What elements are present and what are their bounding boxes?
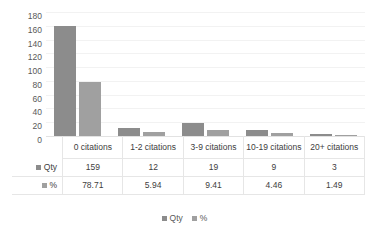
series-color-swatch-icon [36, 165, 41, 170]
bar-chart-with-data-table: Total 180160140120100806040200 0 citatio… [0, 0, 369, 240]
table-cell: 19 [183, 159, 243, 177]
table-cell: 1.49 [304, 177, 364, 195]
table-cell: 3 [304, 159, 364, 177]
table-row-header: Qty [12, 159, 63, 177]
bar-groups [46, 12, 365, 136]
category-label: 3-9 citations [183, 136, 243, 159]
y-axis-tick-labels: 180160140120100806040200 [16, 8, 42, 136]
bar-group [174, 12, 238, 136]
table-cell: 9 [244, 159, 304, 177]
table-body: 0 citations1-2 citations3-9 citations10-… [12, 136, 365, 195]
series-color-swatch-icon [42, 183, 47, 188]
legend-item[interactable]: % [192, 213, 208, 223]
series-name: Qty [44, 162, 57, 172]
table-cell: 4.46 [244, 177, 304, 195]
table-cell: 9.41 [183, 177, 243, 195]
y-axis-tick-label: 100 [28, 67, 42, 75]
table-row: %78.715.949.414.461.49 [12, 177, 365, 195]
table-row: Qty159121993 [12, 159, 365, 177]
y-axis-tick-label: 180 [28, 12, 42, 20]
y-axis-tick-label: 60 [33, 95, 42, 103]
chart-legend: Qty% [0, 213, 369, 223]
table-row-categories: 0 citations1-2 citations3-9 citations10-… [12, 136, 365, 159]
legend-color-swatch-icon [162, 216, 167, 221]
chart-data-table: 0 citations1-2 citations3-9 citations10-… [12, 136, 365, 195]
category-label: 0 citations [63, 136, 123, 159]
bar-qty [118, 128, 140, 136]
bar-group [301, 12, 365, 136]
bar-group [237, 12, 301, 136]
table-cell: 12 [123, 159, 183, 177]
y-axis-tick-label: 160 [28, 26, 42, 34]
y-axis-tick-label: 40 [33, 108, 42, 116]
table-cell: 5.94 [123, 177, 183, 195]
legend-label: % [200, 213, 208, 223]
table-corner-cell [12, 136, 63, 159]
category-label: 10-19 citations [244, 136, 304, 159]
bar-qty [54, 26, 76, 136]
plot-area [46, 12, 365, 136]
y-axis-tick-label: 140 [28, 40, 42, 48]
bar-qty [182, 123, 204, 136]
table-cell: 78.71 [63, 177, 123, 195]
bar-pct [79, 82, 101, 136]
table-cell: 159 [63, 159, 123, 177]
series-name: % [50, 180, 58, 190]
category-label: 1-2 citations [123, 136, 183, 159]
y-axis-tick-label: 120 [28, 53, 42, 61]
bar-group [46, 12, 110, 136]
legend-label: Qty [170, 213, 183, 223]
legend-color-swatch-icon [192, 216, 197, 221]
bar-group [110, 12, 174, 136]
y-axis-tick-label: 80 [33, 81, 42, 89]
y-axis-tick-label: 20 [33, 122, 42, 130]
legend-item[interactable]: Qty [162, 213, 183, 223]
category-label: 20+ citations [304, 136, 364, 159]
table-row-header: % [12, 177, 63, 195]
